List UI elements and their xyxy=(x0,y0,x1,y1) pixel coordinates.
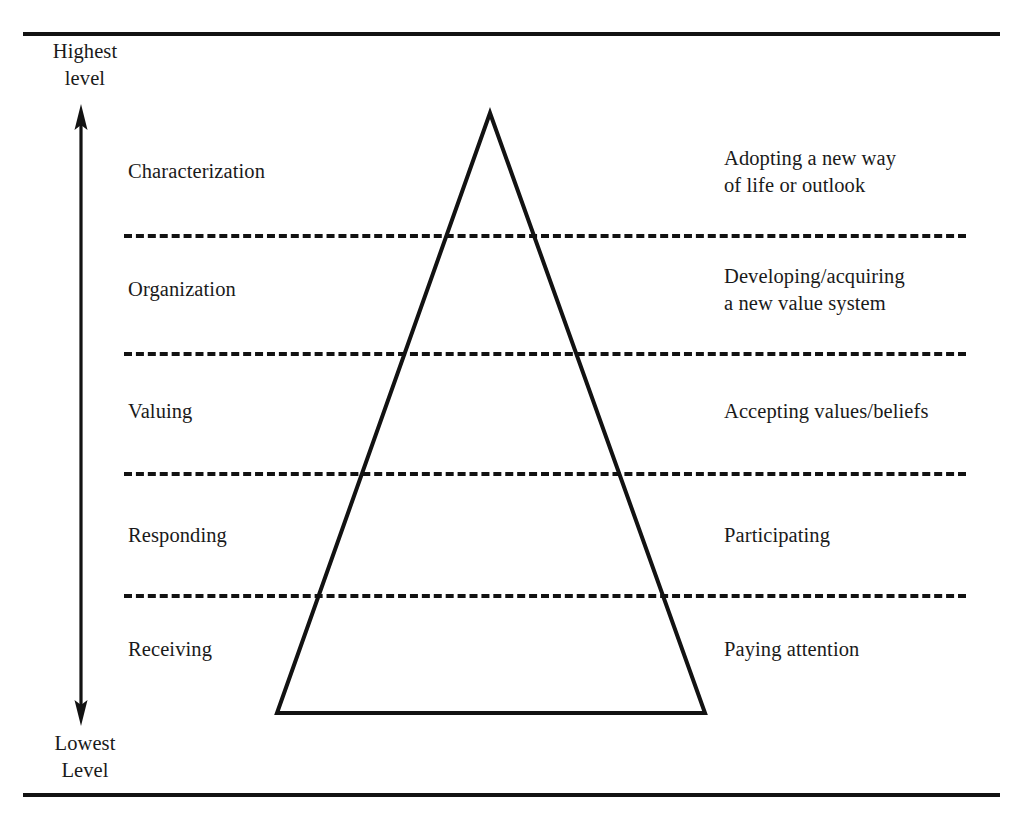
highest-level-caption-line2: level xyxy=(0,65,170,92)
bottom-horizontal-rule xyxy=(23,793,1000,797)
level-description-responding: Participating xyxy=(724,522,830,549)
level-name-receiving: Receiving xyxy=(128,636,212,663)
highest-level-caption-line1: Highest xyxy=(0,38,170,65)
level-name-valuing: Valuing xyxy=(128,398,192,425)
level-description-valuing: Accepting values/beliefs xyxy=(724,398,928,425)
level-description-organization: Developing/acquiring a new value system xyxy=(724,263,905,317)
level-description-characterization: Adopting a new way of life or outlook xyxy=(724,145,896,199)
lowest-level-caption: Lowest Level xyxy=(0,730,170,783)
top-horizontal-rule xyxy=(23,32,1000,36)
highest-level-caption: Highest level xyxy=(0,38,170,91)
level-name-organization: Organization xyxy=(128,276,236,303)
level-name-characterization: Characterization xyxy=(128,158,265,185)
double-headed-vertical-arrow-icon xyxy=(60,100,104,730)
level-description-receiving: Paying attention xyxy=(724,636,859,663)
pyramid-triangle-outline xyxy=(255,95,730,735)
level-name-responding: Responding xyxy=(128,522,227,549)
lowest-level-caption-line1: Lowest xyxy=(0,730,170,757)
diagram-canvas: Highest level Lowest Level Characterizat… xyxy=(0,0,1015,826)
lowest-level-caption-line2: Level xyxy=(0,757,170,784)
